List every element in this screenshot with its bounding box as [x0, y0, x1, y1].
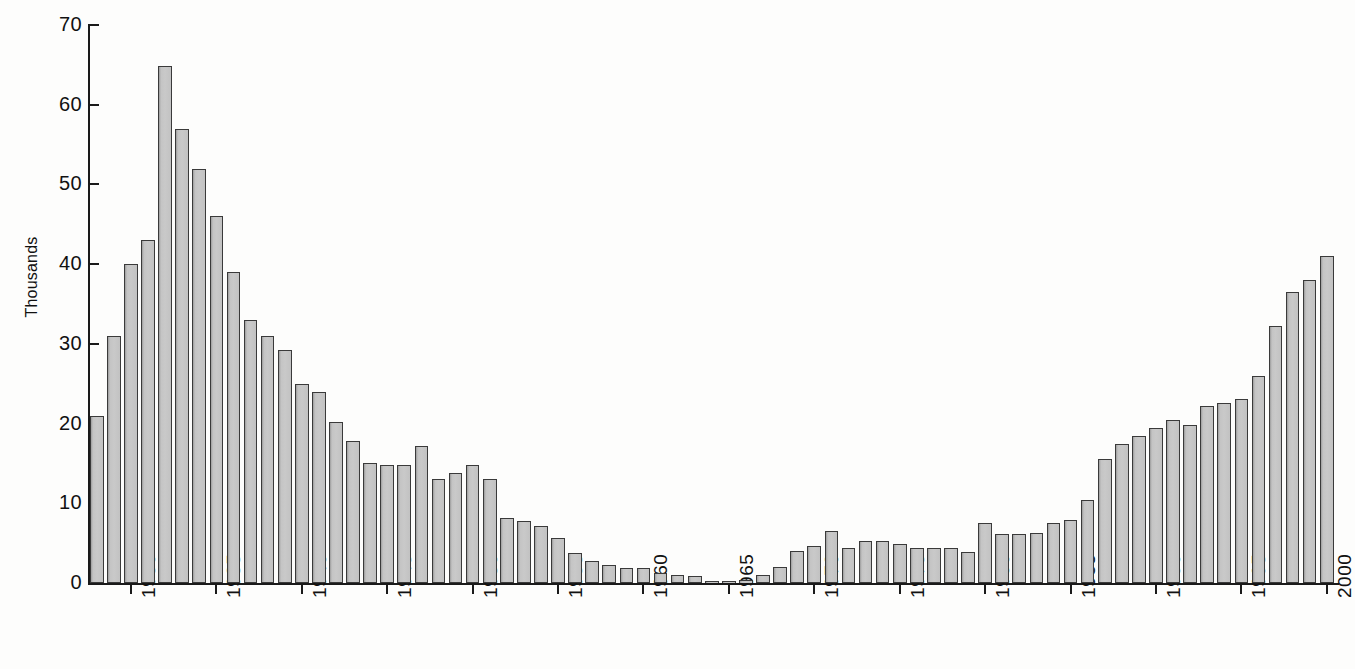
bar: [1252, 376, 1266, 583]
bar: [620, 568, 634, 583]
bar: [773, 567, 787, 583]
bar: [876, 541, 890, 583]
bar: [1183, 425, 1197, 583]
bar: [1286, 292, 1300, 583]
bar: [90, 416, 104, 583]
bar: [1303, 280, 1317, 583]
bar: [192, 169, 206, 584]
bar: [585, 561, 599, 583]
bar: [227, 272, 241, 583]
bar: [449, 473, 463, 583]
bar: [893, 544, 907, 583]
bar: [1166, 420, 1180, 583]
bar: [329, 422, 343, 583]
bar: [1217, 403, 1231, 583]
bar: [380, 465, 394, 583]
bar: [688, 576, 702, 583]
bar: [1030, 533, 1044, 583]
bar: [790, 551, 804, 583]
bar: [995, 534, 1009, 583]
bar: [859, 541, 873, 583]
bar: [637, 568, 651, 583]
bar: [910, 548, 924, 583]
bar: [517, 521, 531, 583]
bar: [483, 479, 497, 583]
bar: [363, 463, 377, 583]
bar: [944, 548, 958, 583]
bar: [722, 581, 736, 584]
bar: [739, 580, 753, 583]
bar: [124, 264, 138, 583]
bar: [705, 581, 719, 584]
bar: [1200, 406, 1214, 583]
bar: [1081, 500, 1095, 583]
bar: [141, 240, 155, 583]
bar: [1098, 459, 1112, 583]
bar: [346, 441, 360, 583]
bar: [961, 552, 975, 583]
bar: [261, 336, 275, 583]
bar: [807, 546, 821, 583]
bar: [1012, 534, 1026, 583]
bar: [500, 518, 514, 583]
bar: [978, 523, 992, 583]
bar: [210, 216, 224, 583]
bar: [1132, 436, 1146, 583]
bar: [825, 531, 839, 583]
bar: [756, 575, 770, 583]
bar: [1115, 444, 1129, 584]
bar: [671, 575, 685, 583]
bar: [1269, 326, 1283, 583]
bar: [415, 446, 429, 583]
bar: [551, 538, 565, 583]
bar: [1320, 256, 1334, 583]
bar: [244, 320, 258, 583]
bar: [1149, 428, 1163, 583]
bar: [158, 66, 172, 583]
bar-chart-figure: Thousands 010203040506070 19301935194019…: [0, 0, 1355, 669]
bar: [397, 465, 411, 583]
bar: [175, 129, 189, 583]
bar: [432, 479, 446, 583]
bar: [842, 548, 856, 583]
bar: [534, 526, 548, 583]
bar: [1235, 399, 1249, 583]
bar: [654, 573, 668, 583]
bar: [568, 553, 582, 583]
bar: [602, 565, 616, 583]
bar: [466, 465, 480, 583]
bar: [312, 392, 326, 583]
bar: [927, 548, 941, 583]
bar: [107, 336, 121, 583]
bar: [295, 384, 309, 583]
bar: [1064, 520, 1078, 583]
bar: [278, 350, 292, 583]
bar-series: [0, 0, 1355, 669]
bar: [1047, 523, 1061, 583]
